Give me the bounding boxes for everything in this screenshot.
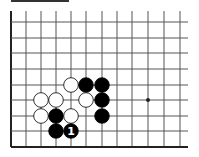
white-stone	[64, 109, 79, 124]
white-stone	[34, 109, 49, 124]
black-stone	[95, 78, 110, 93]
white-stone	[79, 93, 94, 108]
black-stone	[49, 109, 64, 124]
black-stone	[79, 78, 94, 93]
white-stone	[34, 93, 49, 108]
white-stone	[64, 78, 79, 93]
black-stone	[95, 109, 110, 124]
white-stone	[49, 93, 64, 108]
black-stone	[95, 93, 110, 108]
go-board: 1	[0, 0, 199, 157]
star-points	[146, 98, 150, 102]
star-point	[146, 98, 150, 102]
move-number-label: 1	[67, 125, 75, 138]
black-stone	[49, 124, 64, 139]
